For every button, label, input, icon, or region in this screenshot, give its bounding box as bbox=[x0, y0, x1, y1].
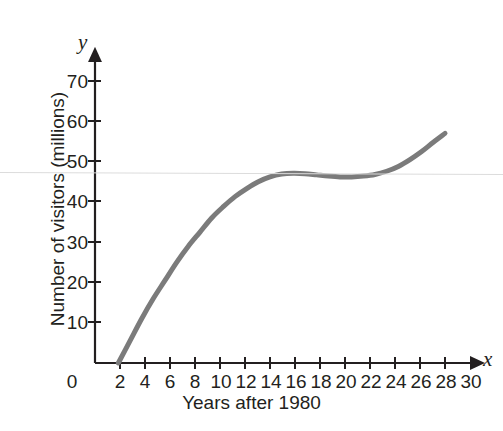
x-tick-label-22: 22 bbox=[360, 372, 381, 391]
x-tick-label-0: 0 bbox=[67, 372, 78, 391]
x-tick-label-30: 30 bbox=[460, 372, 481, 391]
x-tick-label-16: 16 bbox=[285, 372, 306, 391]
x-tick-label-26: 26 bbox=[410, 372, 431, 391]
x-tick-label-14: 14 bbox=[260, 372, 281, 391]
x-tick-label-2: 2 bbox=[115, 372, 126, 391]
data-series-line bbox=[118, 133, 445, 363]
plot-area bbox=[0, 0, 503, 431]
y-axis-letter: y bbox=[78, 32, 87, 53]
x-tick-label-12: 12 bbox=[235, 372, 256, 391]
x-tick-label-24: 24 bbox=[385, 372, 406, 391]
x-tick-label-28: 28 bbox=[435, 372, 456, 391]
x-tick-label-6: 6 bbox=[165, 372, 176, 391]
x-tick-label-4: 4 bbox=[140, 372, 151, 391]
x-axis-letter: x bbox=[483, 349, 492, 370]
x-tick-label-20: 20 bbox=[335, 372, 356, 391]
x-tick-label-10: 10 bbox=[210, 372, 231, 391]
x-tick-label-8: 8 bbox=[190, 372, 201, 391]
chart-figure: 70 60 50 40 30 20 10 0 2 4 6 8 10 12 14 … bbox=[0, 0, 503, 431]
x-tick-label-18: 18 bbox=[310, 372, 331, 391]
y-axis-title: Number of visitors (millions) bbox=[47, 59, 69, 359]
x-axis-title: Years after 1980 bbox=[0, 392, 503, 414]
